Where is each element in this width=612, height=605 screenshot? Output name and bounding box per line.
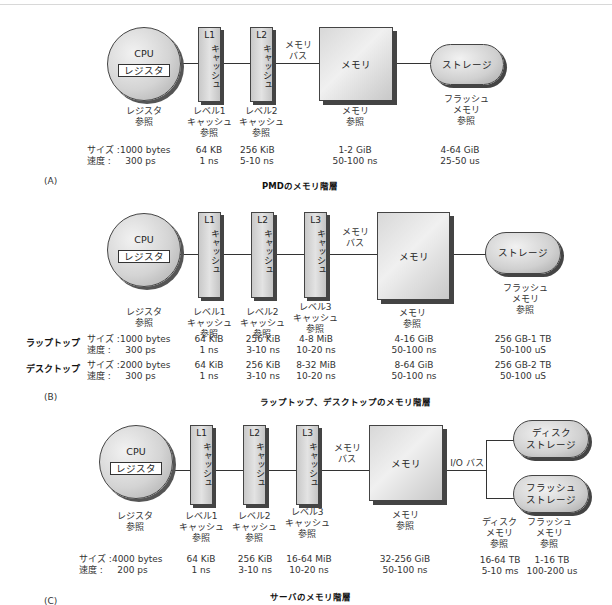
desktop-register-specs: サイズ :2000 bytes 速度 : 300 ps — [87, 360, 170, 382]
disk-link-line — [486, 440, 514, 441]
memory-node: メモリ — [369, 425, 443, 501]
storage-label: ストレージ — [431, 59, 503, 71]
l3-text: キャッシュ — [297, 442, 318, 487]
flash-storage-label: フラッシュ ストレージ — [514, 482, 588, 506]
l3-cache-node: L3 キャッシュ — [304, 212, 327, 298]
section-a-caption: PMDのメモリ階層 — [262, 179, 338, 191]
l1-cache-node: L1 キャッシュ — [198, 27, 221, 102]
cpu-node: CPU レジスタ — [99, 425, 173, 499]
memory-node: メモリ — [319, 27, 393, 101]
storage-node: ストレージ — [430, 44, 504, 85]
memory-specs: 1-2 GiB50-100 ns — [325, 145, 385, 167]
section-b-caption: ラップトップ、デスクトップのメモリ階層 — [260, 395, 431, 407]
l3-text: キャッシュ — [305, 229, 326, 274]
l3-specs: 16-64 MiB10-20 ns — [282, 554, 336, 576]
disk-specs: 16-64 TB5-10 ms — [477, 555, 523, 577]
disk-storage-label: ディスク ストレージ — [514, 427, 588, 451]
l3-ref-label: レベル3キャッシュ参照 — [285, 302, 345, 335]
laptop-register-specs: サイズ :1000 bytes 速度 : 300 ps — [87, 334, 170, 356]
l3-label: L3 — [305, 215, 326, 225]
l1-text: キャッシュ — [199, 44, 220, 89]
register-ref-label: レジスタ参照 — [105, 511, 165, 533]
l3-cache-node: L3 キャッシュ — [296, 425, 319, 505]
desktop-memory-specs: 8-64 GiB50-100 ns — [384, 360, 444, 382]
l2-label: L2 — [252, 215, 273, 225]
laptop-l2-specs: 256 KiB3-10 ns — [238, 334, 288, 356]
memory-ref-label: メモリ参照 — [382, 308, 442, 330]
memory-specs: 32-256 GiB50-100 ns — [375, 554, 435, 576]
l1-ref-label: レベル1キャッシュ参照 — [179, 106, 239, 139]
cpu-label: CPU — [100, 446, 172, 457]
laptop-memory-specs: 4-16 GiB50-100 ns — [384, 334, 444, 356]
flash-storage-node: フラッシュ ストレージ — [513, 475, 589, 513]
memory-ref-label: メモリ参照 — [325, 106, 385, 128]
desktop-l1-specs: 64 KiB1 ns — [186, 360, 232, 382]
l2-label: L2 — [244, 428, 265, 438]
l3-label: L3 — [297, 428, 318, 438]
l1-specs: 64 KiB1 ns — [178, 554, 224, 576]
register-specs: サイズ :1000 bytes 速度 : 300 ps — [87, 145, 170, 167]
io-bus-line — [442, 470, 486, 471]
register-label: レジスタ — [118, 250, 170, 263]
l1-specs: 64 KB1 ns — [186, 145, 232, 167]
desktop-row-label: デスクトップ — [26, 364, 80, 375]
l2-cache-node: L2 キャッシュ — [243, 425, 266, 505]
memory-bus-label: メモリバス — [335, 227, 375, 249]
l2-cache-node: L2 キャッシュ — [251, 212, 274, 298]
storage-label: ストレージ — [486, 247, 560, 259]
register-label: レジスタ — [118, 64, 170, 77]
storage-link-line — [392, 63, 432, 64]
memory-label: メモリ — [370, 456, 442, 470]
l1-label: L1 — [191, 428, 212, 438]
cpu-node: CPU レジスタ — [107, 27, 181, 101]
l1-cache-node: L1 キャッシュ — [190, 425, 213, 505]
memory-ref-label: メモリ参照 — [375, 510, 435, 532]
l2-text: キャッシュ — [252, 229, 273, 274]
register-specs: サイズ :4000 bytes 速度 : 200 ps — [79, 554, 162, 576]
l2-specs: 256 KiB5-10 ns — [240, 145, 275, 167]
storage-ref-label: フラッシュメモリ参照 — [495, 283, 555, 316]
storage-specs: 4-64 GiB25-50 us — [430, 145, 490, 167]
register-label: レジスタ — [110, 462, 162, 475]
memory-label: メモリ — [320, 57, 392, 71]
register-ref-label: レジスタ参照 — [114, 307, 174, 329]
desktop-l3-specs: 8-32 MiB10-20 ns — [291, 360, 341, 382]
l2-text: キャッシュ — [244, 442, 265, 487]
l1-cache-node: L1 キャッシュ — [198, 212, 221, 298]
io-bus-label: I/O バス — [448, 458, 486, 469]
l2-cache-node: L2 キャッシュ — [250, 27, 273, 102]
memory-bus-label: メモリバス — [327, 443, 367, 465]
disk-storage-node: ディスク ストレージ — [513, 420, 589, 458]
l1-text: キャッシュ — [191, 442, 212, 487]
l1-label: L1 — [199, 215, 220, 225]
cpu-label: CPU — [108, 48, 180, 59]
l1-ref-label: レベル1キャッシュ参照 — [171, 511, 231, 544]
section-b-label: (B) — [44, 392, 57, 402]
cpu-node: CPU レジスタ — [107, 213, 181, 287]
memory-node: メモリ — [377, 212, 450, 300]
io-bus-branch — [486, 440, 487, 499]
l2-label: L2 — [251, 30, 272, 40]
flash-link-line — [486, 498, 514, 499]
storage-node: ストレージ — [485, 232, 561, 274]
l2-ref-label: レベル2キャッシュ参照 — [231, 106, 291, 139]
laptop-l3-specs: 4-8 MiB10-20 ns — [291, 334, 341, 356]
flash-specs: 1-16 TB100-200 us — [521, 555, 583, 577]
l2-ref-label: レベル2キャッシュ参照 — [224, 511, 284, 544]
l1-text: キャッシュ — [199, 229, 220, 274]
top-border — [0, 4, 612, 5]
storage-ref-label: フラッシュメモリ参照 — [436, 94, 496, 127]
section-c-label: (C) — [44, 596, 57, 605]
flash-ref-label: フラッシュメモリ参照 — [524, 517, 574, 550]
l1-label: L1 — [199, 30, 220, 40]
desktop-l2-specs: 256 KiB3-10 ns — [238, 360, 288, 382]
cpu-label: CPU — [108, 234, 180, 245]
register-ref-label: レジスタ参照 — [114, 106, 174, 128]
l2-specs: 256 KiB3-10 ns — [230, 554, 280, 576]
disk-ref-label: ディスクメモリ参照 — [478, 517, 520, 550]
storage-link-line — [448, 254, 488, 255]
laptop-row-label: ラップトップ — [26, 338, 80, 349]
desktop-storage-specs: 256 GB-2 TB50-100 uS — [488, 360, 558, 382]
laptop-storage-specs: 256 GB-1 TB50-100 uS — [488, 334, 558, 356]
l2-text: キャッシュ — [251, 44, 272, 89]
